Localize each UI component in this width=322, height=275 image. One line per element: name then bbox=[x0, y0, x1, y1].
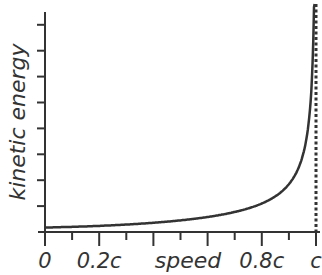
x-axis-ticks bbox=[45, 232, 316, 246]
y-axis-label: kinetic energy bbox=[5, 42, 30, 200]
kinetic-energy-chart: 00.2c0.8cc speed kinetic energy bbox=[0, 0, 322, 275]
x-tick-label: 0.2c bbox=[77, 249, 122, 273]
x-tick-label: c bbox=[310, 249, 322, 273]
x-tick-label: 0.8c bbox=[239, 249, 284, 273]
kinetic-energy-curve bbox=[45, 4, 315, 228]
x-tick-label: 0 bbox=[38, 249, 51, 273]
x-axis-label: speed bbox=[155, 248, 222, 273]
y-axis-ticks bbox=[37, 25, 45, 206]
